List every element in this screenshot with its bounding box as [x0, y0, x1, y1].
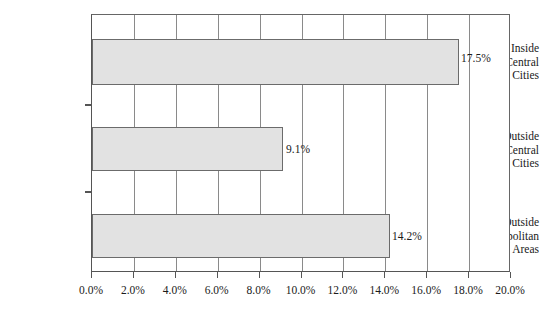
bar-chart: Inside Central Cities Outside Central Ci…: [0, 0, 544, 317]
x-axis-tick-14: [384, 272, 385, 278]
x-axis-tick-6: [217, 272, 218, 278]
x-axis-tick-0: [91, 272, 92, 278]
bar-outside-metropolitan-areas: [92, 214, 390, 258]
bar-inside-central-cities: [92, 39, 459, 85]
x-axis-label-20: 20.0%: [480, 285, 540, 297]
x-axis-tick-10: [301, 272, 302, 278]
x-axis-tick-8: [259, 272, 260, 278]
value-label-outside-central-cities: 9.1%: [286, 144, 310, 156]
x-axis-tick-4: [175, 272, 176, 278]
x-axis-tick-2: [133, 272, 134, 278]
x-axis-tick-16: [426, 272, 427, 278]
x-axis-tick-12: [342, 272, 343, 278]
x-axis-tick-18: [468, 272, 469, 278]
bar-outside-central-cities: [92, 127, 283, 171]
value-label-outside-metropolitan-areas: 14.2%: [392, 231, 422, 243]
value-label-inside-central-cities: 17.5%: [461, 53, 491, 65]
x-axis-tick-20: [510, 272, 511, 278]
